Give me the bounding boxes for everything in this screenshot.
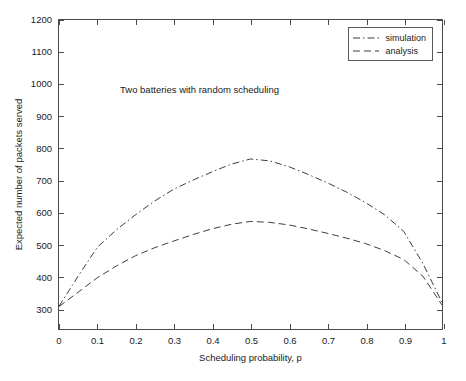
y-tick-mark <box>59 277 64 278</box>
y-tick-mark <box>59 310 64 311</box>
y-tick-mark-right <box>437 52 442 53</box>
x-tick-label: 0.9 <box>399 334 412 347</box>
x-tick-mark-top <box>97 20 98 25</box>
y-axis-label-text: Expected number of packets served <box>14 99 25 251</box>
y-tick-mark <box>59 213 64 214</box>
legend-entry-analysis: analysis <box>353 44 426 57</box>
x-tick-mark <box>251 324 252 329</box>
figure-canvas: 300400500600700800900100011001200 00.10.… <box>0 0 466 381</box>
series-line-analysis <box>59 221 442 306</box>
x-tick-mark <box>367 324 368 329</box>
y-tick-mark-right <box>437 148 442 149</box>
x-tick-mark-top <box>444 20 445 25</box>
y-tick-mark-right <box>437 213 442 214</box>
x-axis-label: Scheduling probability, p <box>58 352 443 363</box>
legend-line-sample <box>353 33 379 43</box>
y-tick-label: 1000 <box>31 77 52 90</box>
x-tick-label: 0.3 <box>168 334 181 347</box>
x-tick-label: 1 <box>441 334 446 347</box>
y-tick-label: 600 <box>36 206 52 219</box>
x-tick-label: 0.5 <box>245 334 258 347</box>
x-tick-mark-top <box>59 20 60 25</box>
x-tick-mark-top <box>328 20 329 25</box>
x-tick-mark-top <box>367 20 368 25</box>
plot-area: 300400500600700800900100011001200 00.10.… <box>58 19 443 330</box>
x-tick-label: 0.1 <box>91 334 104 347</box>
x-tick-mark-top <box>290 20 291 25</box>
x-tick-mark <box>97 324 98 329</box>
plot-annotation: Two batteries with random scheduling <box>120 84 279 95</box>
x-tick-mark <box>328 324 329 329</box>
y-tick-mark <box>59 116 64 117</box>
y-tick-label: 900 <box>36 110 52 123</box>
x-tick-mark <box>59 324 60 329</box>
x-tick-label: 0 <box>56 334 61 347</box>
y-tick-mark-right <box>437 84 442 85</box>
x-tick-mark <box>136 324 137 329</box>
y-tick-mark <box>59 52 64 53</box>
series-layer <box>59 20 442 329</box>
y-tick-label: 1100 <box>32 45 52 58</box>
x-tick-mark <box>290 324 291 329</box>
legend: simulationanalysis <box>348 27 433 61</box>
legend-label: simulation <box>385 33 426 43</box>
x-tick-mark <box>444 324 445 329</box>
legend-entry-simulation: simulation <box>353 31 426 44</box>
x-tick-mark-top <box>174 20 175 25</box>
x-tick-mark-top <box>213 20 214 25</box>
y-tick-mark-right <box>437 20 442 21</box>
x-tick-label: 0.7 <box>322 334 335 347</box>
y-tick-label: 500 <box>36 239 52 252</box>
y-tick-mark-right <box>437 310 442 311</box>
y-tick-label: 700 <box>36 174 52 187</box>
y-tick-mark-right <box>437 116 442 117</box>
y-tick-mark-right <box>437 181 442 182</box>
legend-line-sample <box>353 46 379 56</box>
y-tick-mark <box>59 148 64 149</box>
y-tick-mark <box>59 84 64 85</box>
y-tick-mark <box>59 245 64 246</box>
y-axis-label: Expected number of packets served <box>12 19 26 330</box>
y-tick-label: 400 <box>36 271 52 284</box>
x-tick-mark <box>405 324 406 329</box>
y-tick-mark-right <box>437 245 442 246</box>
y-tick-label: 1200 <box>31 13 52 26</box>
x-tick-label: 0.2 <box>129 334 142 347</box>
legend-label: analysis <box>385 46 418 56</box>
x-tick-mark <box>174 324 175 329</box>
x-tick-mark-top <box>136 20 137 25</box>
y-tick-label: 300 <box>36 303 52 316</box>
series-line-simulation <box>59 159 442 306</box>
x-tick-mark-top <box>405 20 406 25</box>
x-tick-mark <box>213 324 214 329</box>
x-tick-label: 0.6 <box>283 334 296 347</box>
y-tick-mark-right <box>437 277 442 278</box>
y-tick-mark <box>59 20 64 21</box>
x-tick-mark-top <box>251 20 252 25</box>
x-tick-label: 0.4 <box>206 334 219 347</box>
y-tick-mark <box>59 181 64 182</box>
y-tick-label: 800 <box>36 142 52 155</box>
x-tick-label: 0.8 <box>360 334 373 347</box>
